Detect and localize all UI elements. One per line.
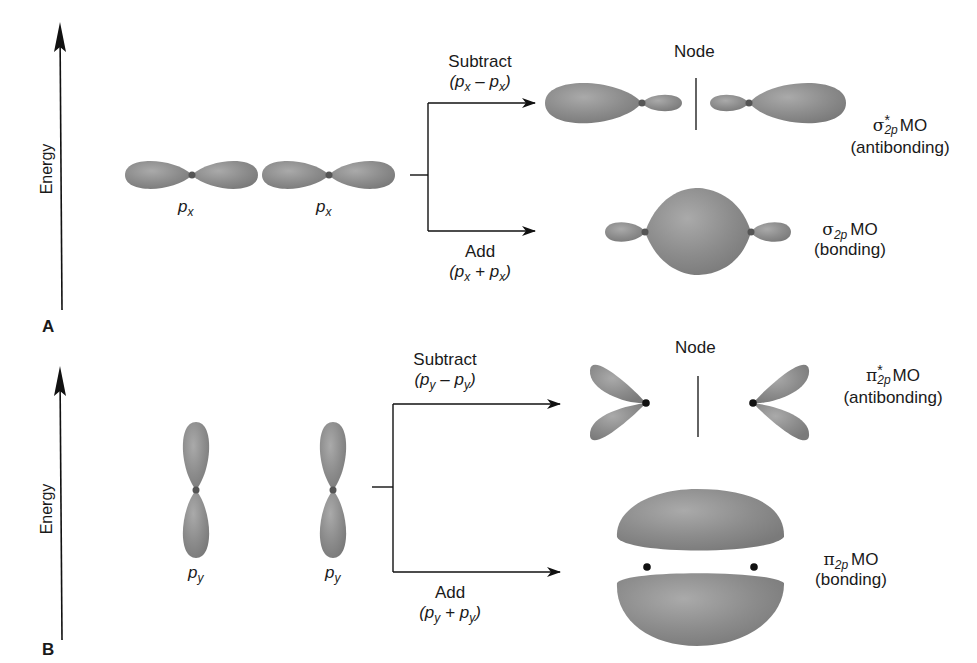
greek-letter: π xyxy=(866,365,877,385)
combination-bracket-b xyxy=(372,404,560,572)
mo-type: (antibonding) xyxy=(840,138,960,158)
pi-bonding-orbital xyxy=(617,489,784,646)
orbital-subscript: y xyxy=(197,571,203,585)
greek-letter: π xyxy=(824,549,835,569)
greek-letter: σ xyxy=(873,115,885,135)
subtract-label-b: Subtract (py – py) xyxy=(395,350,495,389)
px-label-1: px xyxy=(178,197,193,217)
add-expression: (px + px) xyxy=(430,262,530,282)
greek-letter: σ xyxy=(822,219,834,239)
py-orbital-1 xyxy=(183,422,209,558)
py-orbital-2 xyxy=(320,422,346,558)
add-label-a: Add (px + px) xyxy=(430,242,530,281)
node-label-a: Node xyxy=(674,42,715,62)
panel-label-a: A xyxy=(42,317,54,337)
py-label-1: py xyxy=(188,563,203,583)
add-text: Add xyxy=(400,583,500,603)
mo-type: (bonding) xyxy=(796,570,906,590)
sigma-bonding-label: σ2pMO (bonding) xyxy=(800,220,900,259)
energy-axis-label-b: Energy xyxy=(38,484,56,535)
combination-bracket-a xyxy=(410,103,535,231)
orbital-subscript: y xyxy=(334,571,340,585)
pi-star-label: π*2pMO (antibonding) xyxy=(828,366,958,407)
node-label-b: Node xyxy=(675,338,716,358)
mo-type: (antibonding) xyxy=(828,388,958,408)
mo-type: (bonding) xyxy=(800,240,900,260)
px-orbital-1 xyxy=(125,161,258,189)
px-orbital-2 xyxy=(262,161,395,189)
px-label-2: px xyxy=(316,197,331,217)
sigma-star-antibonding-orbital xyxy=(545,78,846,130)
energy-axis-label-a: Energy xyxy=(38,144,56,195)
orbital-subscript: x xyxy=(325,205,331,219)
subtract-expression: (py – py) xyxy=(395,370,495,390)
add-label-b: Add (py + py) xyxy=(400,583,500,622)
pi-star-antibonding-orbital xyxy=(590,365,809,441)
sigma-bonding-orbital xyxy=(605,188,791,275)
orbital-subscript: x xyxy=(187,205,193,219)
sigma-star-label: σ*2pMO (antibonding) xyxy=(840,116,960,157)
subtract-label-a: Subtract (px – px) xyxy=(430,52,530,91)
add-text: Add xyxy=(430,242,530,262)
pi-bonding-label: π2pMO (bonding) xyxy=(796,550,906,589)
py-label-2: py xyxy=(325,563,340,583)
subtract-expression: (px – px) xyxy=(430,72,530,92)
panel-label-b: B xyxy=(42,640,54,660)
subtract-text: Subtract xyxy=(430,52,530,72)
add-expression: (py + py) xyxy=(400,603,500,623)
subtract-text: Subtract xyxy=(395,350,495,370)
